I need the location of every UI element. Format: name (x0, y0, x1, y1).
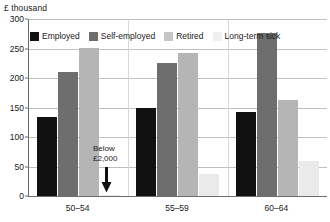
x-axis-labels: 50–5455–5960–64 (28, 203, 326, 213)
y-axis-tick-label: 100 (10, 133, 24, 142)
bar-retired-60-64[interactable] (278, 100, 298, 196)
legend-swatch-long-term-sick (213, 32, 222, 41)
legend-swatch-self-employed (89, 32, 98, 41)
below-2000-annotation: Below £2,000 (93, 144, 117, 163)
annotation-line-2: £2,000 (93, 154, 117, 164)
group-separator (128, 19, 129, 196)
legend-item-long-term-sick[interactable]: Long-term sick (213, 31, 281, 41)
bar-groups (29, 19, 327, 196)
y-axis-tick-label: 0 (19, 192, 24, 201)
x-axis-label-50-54: 50–54 (28, 203, 127, 213)
bar-group-50-54 (29, 19, 128, 196)
legend-label-employed: Employed (42, 31, 80, 41)
x-axis-label-55-59: 55–59 (127, 203, 226, 213)
bar-employed-55-59[interactable] (136, 108, 156, 197)
legend-label-self-employed: Self-employed (101, 31, 155, 41)
y-axis-tick-label: 300 (10, 15, 24, 24)
y-axis-tick-label: 50 (15, 162, 24, 171)
bar-chart: £ thousand 300250200150100500 EmployedSe… (0, 0, 330, 222)
legend-item-self-employed[interactable]: Self-employed (89, 31, 155, 41)
y-axis-unit-label: £ thousand (4, 3, 47, 13)
bar-long-term-sick-50-54[interactable] (100, 195, 120, 196)
bar-long-term-sick-55-59[interactable] (199, 174, 219, 196)
bar-employed-60-64[interactable] (236, 112, 256, 196)
legend-swatch-employed (30, 32, 39, 41)
legend-label-retired: Retired (176, 31, 203, 41)
annotation-line-1: Below (93, 144, 117, 154)
bar-self-employed-50-54[interactable] (58, 72, 78, 196)
plot-area (28, 19, 327, 197)
x-axis-label-60-64: 60–64 (227, 203, 326, 213)
legend-item-employed[interactable]: Employed (30, 31, 80, 41)
bar-retired-55-59[interactable] (178, 53, 198, 196)
legend-item-retired[interactable]: Retired (164, 31, 203, 41)
legend-swatch-retired (164, 32, 173, 41)
bar-group-60-64 (228, 19, 327, 196)
bar-employed-50-54[interactable] (37, 117, 57, 196)
bar-self-employed-60-64[interactable] (257, 33, 277, 196)
bar-long-term-sick-60-64[interactable] (299, 161, 319, 196)
bar-retired-50-54[interactable] (79, 48, 99, 196)
y-axis-tick-label: 200 (10, 74, 24, 83)
bar-group-55-59 (128, 19, 227, 196)
y-axis-tick-label: 250 (10, 44, 24, 53)
group-separator (228, 19, 229, 196)
y-axis-ticks: 300250200150100500 (0, 19, 28, 196)
bar-self-employed-55-59[interactable] (157, 63, 177, 196)
y-axis-tick-label: 150 (10, 103, 24, 112)
legend-label-long-term-sick: Long-term sick (225, 31, 281, 41)
chart-legend: EmployedSelf-employedRetiredLong-term si… (30, 31, 284, 41)
annotation-down-arrow-icon (101, 167, 112, 193)
